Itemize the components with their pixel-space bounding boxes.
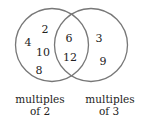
set-circle-multiples-of-3 [55, 9, 128, 82]
element-2: 2 [42, 24, 49, 35]
set-label-multiples-of-3-line1: multiples [85, 94, 134, 105]
element-9: 9 [100, 56, 107, 67]
set-label-multiples-of-3-line2: of 3 [99, 106, 119, 116]
set-label-multiples-of-2-line2: of 2 [30, 106, 50, 116]
element-8: 8 [36, 65, 43, 76]
element-6: 6 [66, 33, 73, 44]
element-12: 12 [63, 52, 77, 63]
element-4: 4 [25, 37, 32, 48]
element-10: 10 [36, 47, 50, 58]
element-3: 3 [96, 33, 103, 44]
set-label-multiples-of-2-line1: multiples [15, 94, 64, 105]
